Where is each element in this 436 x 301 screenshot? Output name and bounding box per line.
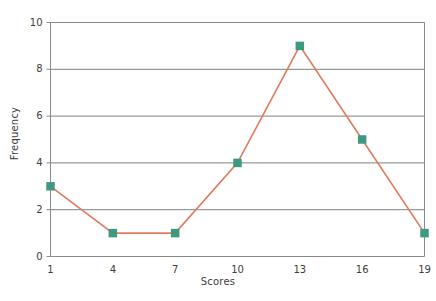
data-series-line xyxy=(51,46,425,233)
y-axis-title: Frequency xyxy=(9,94,20,174)
data-point-marker xyxy=(109,229,118,238)
data-point-marker xyxy=(420,229,429,238)
y-tick-label: 8 xyxy=(13,63,43,74)
data-point-marker xyxy=(296,42,305,51)
chart-canvas xyxy=(0,0,436,301)
x-tick-label: 19 xyxy=(405,264,436,275)
data-point-marker xyxy=(46,182,55,191)
x-tick-label: 4 xyxy=(93,264,133,275)
x-tick-label: 10 xyxy=(218,264,258,275)
x-tick-label: 13 xyxy=(280,264,320,275)
y-tick-label: 0 xyxy=(13,251,43,262)
y-tick-label: 2 xyxy=(13,204,43,215)
x-tick-label: 7 xyxy=(155,264,195,275)
x-tick-label: 1 xyxy=(31,264,71,275)
axes-group xyxy=(47,23,425,257)
y-tick-label: 10 xyxy=(13,17,43,28)
data-point-marker xyxy=(233,159,242,168)
x-tick-label: 16 xyxy=(342,264,382,275)
gridlines-group xyxy=(51,23,425,210)
data-markers-group xyxy=(46,42,429,238)
frequency-polygon-chart: 0246810 14710131619 Frequency Scores xyxy=(0,0,436,301)
x-axis-title: Scores xyxy=(0,276,436,287)
data-line-group xyxy=(51,46,425,233)
data-point-marker xyxy=(171,229,180,238)
data-point-marker xyxy=(358,135,367,144)
